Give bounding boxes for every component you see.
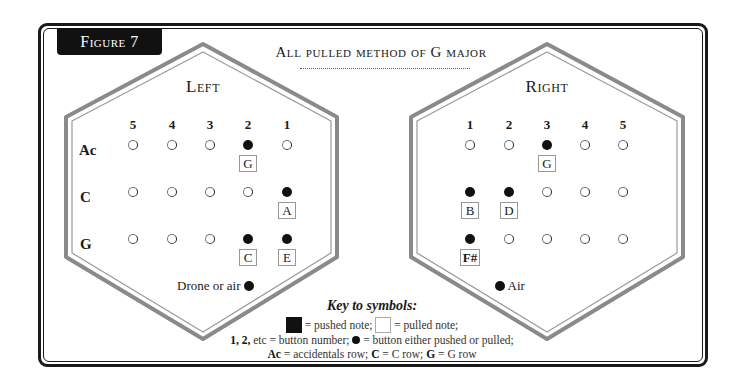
right-ac-button-5 [618,140,628,150]
note-label: D [500,202,518,219]
pulled-swatch-icon [375,317,391,333]
left-ac-button-3 [205,140,215,150]
g-bold: G [426,348,435,360]
note-label: A [278,202,296,219]
either-dot-icon [352,336,360,344]
row-label-ac: Ac [79,142,97,159]
left-c-button-1 [282,187,292,197]
left-side-label: Left [153,77,253,97]
right-c-button-3 [542,187,552,197]
ac-bold: Ac [268,348,281,360]
right-g-button-2 [504,234,514,244]
button-number-text: etc = button number; [253,334,349,346]
right-col-1: 1 [460,117,480,133]
left-col-5: 5 [123,117,143,133]
left-c-button-5 [128,187,138,197]
left-ac-button-1 [282,140,292,150]
left-c-button-2 [243,187,253,197]
left-c-button-4 [167,187,177,197]
air-label: Air [495,278,525,294]
left-g-button-2 [243,234,253,244]
note-label: F# [460,249,480,266]
right-c-button-2 [504,187,514,197]
right-col-2: 2 [499,117,519,133]
left-col-1: 1 [277,117,297,133]
air-button-icon [495,281,505,291]
either-text: = button either pushed or pulled; [363,334,514,346]
right-c-button-1 [465,187,475,197]
key-line-3: Ac = accidentals row; C = C row; G = G r… [200,348,544,360]
left-g-button-4 [167,234,177,244]
ac-text: = accidentals row; [284,348,368,360]
note-label: B [461,202,479,219]
right-g-button-5 [618,234,628,244]
g-text: = G row [438,348,476,360]
right-g-button-1 [465,234,475,244]
drone-or-air-label: Drone or air [177,278,254,294]
left-g-button-5 [128,234,138,244]
key-line-2: 1, 2, etc = button number; = button eith… [200,334,544,346]
left-g-button-3 [205,234,215,244]
right-ac-button-2 [504,140,514,150]
right-g-button-3 [542,234,552,244]
row-label-g: G [80,236,92,253]
key-title: Key to symbols: [272,298,472,314]
left-ac-button-5 [128,140,138,150]
c-text: = C row; [382,348,423,360]
left-col-3: 3 [200,117,220,133]
left-col-4: 4 [162,117,182,133]
key-line-1: = pushed note; = pulled note; [200,317,544,333]
right-ac-button-1 [465,140,475,150]
air-label-text: Air [508,278,525,293]
drone-button-icon [244,281,254,291]
left-ac-button-2 [243,140,253,150]
right-c-button-4 [580,187,590,197]
note-label: E [278,249,296,266]
right-ac-button-4 [580,140,590,150]
left-g-button-1 [282,234,292,244]
pushed-swatch-icon [286,317,302,333]
right-g-button-4 [580,234,590,244]
drone-label-text: Drone or air [177,278,241,293]
row-label-c: C [80,189,91,206]
note-label: G [538,155,556,172]
right-col-3: 3 [537,117,557,133]
c-bold: C [371,348,379,360]
right-c-button-5 [618,187,628,197]
pushed-text: = pushed note; [305,319,373,331]
note-label: C [239,249,257,266]
left-col-2: 2 [238,117,258,133]
note-label: G [239,155,257,172]
button-number-bold: 1, 2, [230,334,250,346]
pulled-text: = pulled note; [394,319,458,331]
right-side-label: Right [497,77,597,97]
left-c-button-3 [205,187,215,197]
right-col-5: 5 [613,117,633,133]
right-ac-button-3 [542,140,552,150]
right-col-4: 4 [575,117,595,133]
left-ac-button-4 [167,140,177,150]
